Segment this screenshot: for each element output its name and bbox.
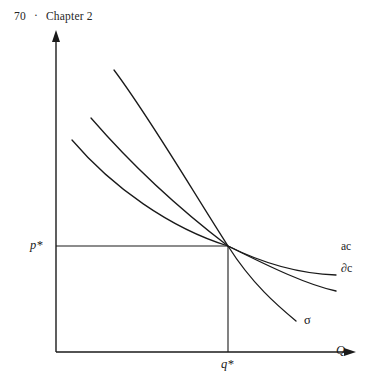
x-axis-tick-label-q-star: q*	[221, 358, 234, 371]
x-axis	[56, 348, 356, 356]
economics-figure: p* q* Q ac ∂c σ	[0, 0, 379, 383]
x-axis-arrowhead	[344, 348, 356, 356]
curve-label-average-cost: ac	[341, 241, 351, 253]
figure-svg	[0, 0, 379, 383]
curve-average-cost	[91, 118, 336, 275]
curve-label-marginal-cost: ∂c	[341, 262, 352, 274]
y-axis-tick-label-p-star: p*	[30, 239, 43, 252]
curve-sigma	[114, 70, 296, 321]
x-axis-label: Q	[336, 344, 345, 357]
curve-marginal-cost	[72, 140, 336, 291]
y-axis-arrowhead	[52, 30, 60, 42]
y-axis	[52, 30, 60, 352]
curve-label-sigma: σ	[304, 314, 311, 327]
book-page: 70 · Chapter 2	[0, 0, 379, 383]
